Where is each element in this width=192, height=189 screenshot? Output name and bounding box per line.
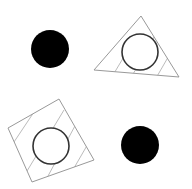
quadrilateral-inner-circle — [33, 128, 69, 164]
quadrilateral-group — [8, 99, 96, 182]
triangle-group — [94, 16, 192, 92]
triangle-inner-circle — [122, 34, 158, 70]
diagram-canvas — [0, 0, 192, 189]
filled-circle-top-left — [31, 30, 69, 68]
filled-circle-bottom-right — [121, 126, 159, 164]
